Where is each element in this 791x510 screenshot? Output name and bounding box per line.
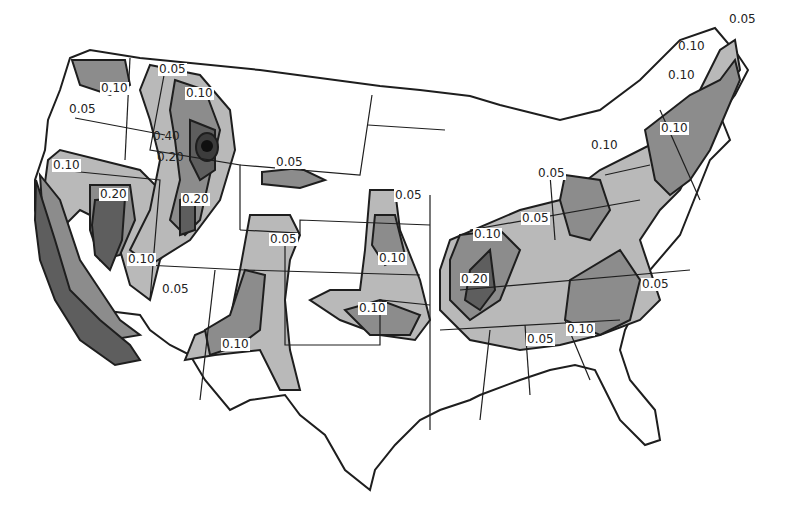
contour-label: 0.40 — [152, 130, 181, 143]
contour-label: 0.10 — [566, 323, 595, 336]
contour-label: 0.10 — [127, 253, 156, 266]
contour-0-40-peak — [196, 133, 218, 161]
contour-label: 0.05 — [161, 283, 190, 296]
contour-label: 0.05 — [521, 212, 550, 225]
contour-label: 0.20 — [181, 193, 210, 206]
contour-label: 0.20 — [460, 273, 489, 286]
contour-label: 0.10 — [667, 69, 696, 82]
contour-label: 0.05 — [641, 278, 670, 291]
contour-label: 0.10 — [660, 122, 689, 135]
contour-label: 0.05 — [158, 63, 187, 76]
contour-label: 0.10 — [358, 302, 387, 315]
contour-label: 0.10 — [473, 228, 502, 241]
contour-label: 0.05 — [537, 167, 566, 180]
contour-label: 0.10 — [590, 139, 619, 152]
contour-label: 0.10 — [378, 252, 407, 265]
contour-label: 0.10 — [100, 82, 129, 95]
contour-label: 0.05 — [269, 233, 298, 246]
contour-label: 0.10 — [677, 40, 706, 53]
contour-label: 0.20 — [99, 188, 128, 201]
contour-label: 0.10 — [185, 87, 214, 100]
contour-label: 0.10 — [221, 338, 250, 351]
contour-label: 0.05 — [728, 13, 757, 26]
contour-label: 0.05 — [275, 156, 304, 169]
contour-label: 0.05 — [394, 189, 423, 202]
contour-label: 0.05 — [526, 333, 555, 346]
contour-label: 0.10 — [52, 159, 81, 172]
contour-label: 0.20 — [156, 151, 185, 164]
contour-label: 0.05 — [68, 103, 97, 116]
